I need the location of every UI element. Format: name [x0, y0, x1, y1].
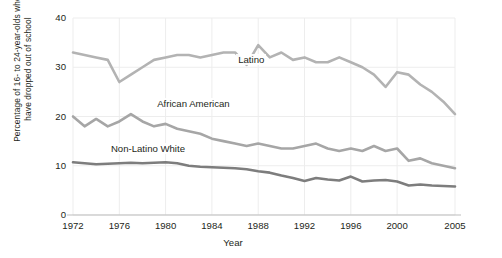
x-tick-label: 1980 — [141, 221, 191, 231]
x-tick-label: 1972 — [48, 221, 98, 231]
y-tick-label: 40 — [32, 13, 66, 23]
series-label-non-latino-white: Non-Latino White — [109, 143, 187, 154]
x-tick-label: 1988 — [233, 221, 283, 231]
x-axis-title: Year — [0, 237, 502, 248]
series-label-latino: Latino — [236, 54, 266, 65]
dropout-rate-line-chart: Percentage of 16- to 24-year-olds who ha… — [0, 0, 502, 258]
y-tick-label: 30 — [32, 62, 66, 72]
series-label-african-american: African American — [155, 98, 232, 109]
y-axis-tick-labels: 010203040 — [32, 0, 66, 258]
x-tick-label: 2000 — [372, 221, 422, 231]
data-series-lines — [73, 45, 455, 186]
y-tick-label: 10 — [32, 161, 66, 171]
x-axis-tick-labels: 197219761980198419881992199620002005 — [0, 221, 502, 235]
x-tick-label: 1976 — [94, 221, 144, 231]
x-axis-title-text: Year — [223, 237, 242, 248]
series-line-african-american — [73, 114, 455, 168]
y-tick-label: 20 — [32, 112, 66, 122]
x-tick-label: 1996 — [326, 221, 376, 231]
x-tick-label: 1992 — [280, 221, 330, 231]
x-tick-label: 2005 — [430, 221, 480, 231]
x-tick-label: 1984 — [187, 221, 237, 231]
y-tick-label: 0 — [32, 210, 66, 220]
gridlines — [73, 18, 455, 215]
